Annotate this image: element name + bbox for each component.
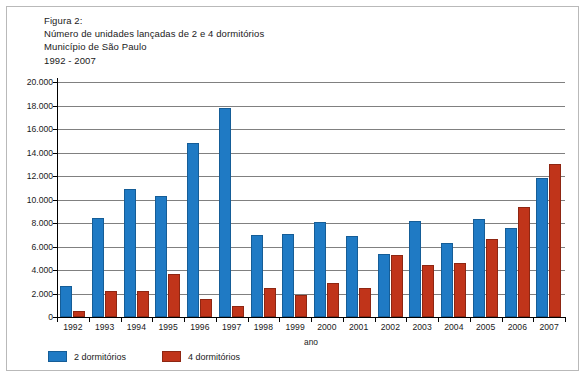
y-tick-label: 12.000: [27, 171, 53, 181]
legend-item-4-dormitorios[interactable]: 4 dormitórios: [162, 351, 240, 362]
legend-label: 4 dormitórios: [188, 352, 240, 362]
y-tick-label: 4.000: [31, 265, 53, 275]
bar-4-dormitorios[interactable]: [549, 164, 561, 317]
bar-4-dormitorios[interactable]: [518, 207, 530, 317]
figure-container: Figura 2: Número de unidades lançadas de…: [0, 0, 585, 379]
bars-layer: [57, 82, 565, 317]
x-tick-label: 1995: [159, 322, 178, 332]
bar-2-dormitorios[interactable]: [536, 178, 548, 317]
bar-group: [121, 82, 153, 317]
bar-group: [152, 82, 184, 317]
bar-group: [375, 82, 407, 317]
x-axis-title: ano: [57, 337, 565, 347]
bar-4-dormitorios[interactable]: [232, 306, 244, 317]
bar-4-dormitorios[interactable]: [200, 299, 212, 317]
bar-2-dormitorios[interactable]: [314, 222, 326, 317]
legend-item-2-dormitorios[interactable]: 2 dormitórios: [48, 351, 126, 362]
bar-2-dormitorios[interactable]: [409, 221, 421, 317]
x-tick-label: 1997: [222, 322, 241, 332]
bar-4-dormitorios[interactable]: [359, 288, 371, 317]
bar-4-dormitorios[interactable]: [295, 295, 307, 317]
bar-4-dormitorios[interactable]: [454, 263, 466, 317]
bar-group: [216, 82, 248, 317]
bar-2-dormitorios[interactable]: [505, 228, 517, 317]
bar-4-dormitorios[interactable]: [168, 274, 180, 317]
bar-2-dormitorios[interactable]: [187, 143, 199, 317]
plot-area: 20.00018.00016.00014.00012.00010.0008.00…: [0, 0, 585, 379]
bar-group: [406, 82, 438, 317]
x-tick-label: 2000: [317, 322, 336, 332]
bar-4-dormitorios[interactable]: [486, 239, 498, 317]
bar-2-dormitorios[interactable]: [124, 189, 136, 317]
bar-group: [533, 82, 565, 317]
bar-group: [279, 82, 311, 317]
x-tick-label: 2006: [508, 322, 527, 332]
x-tick-label: 2004: [444, 322, 463, 332]
bar-4-dormitorios[interactable]: [264, 288, 276, 317]
y-tick-label: 10.000: [27, 195, 53, 205]
bar-2-dormitorios[interactable]: [60, 286, 72, 317]
legend-label: 2 dormitórios: [74, 352, 126, 362]
chart-legend: 2 dormitórios4 dormitórios: [48, 351, 240, 362]
bar-4-dormitorios[interactable]: [391, 255, 403, 317]
bar-2-dormitorios[interactable]: [251, 235, 263, 317]
bar-2-dormitorios[interactable]: [92, 218, 104, 317]
x-tick-label: 2005: [476, 322, 495, 332]
y-tick-label: 18.000: [27, 101, 53, 111]
x-tick-label: 2001: [349, 322, 368, 332]
bar-4-dormitorios[interactable]: [422, 265, 434, 317]
bar-group: [89, 82, 121, 317]
bar-2-dormitorios[interactable]: [219, 108, 231, 317]
y-tick-label: 14.000: [27, 148, 53, 158]
x-tick-label: 1999: [286, 322, 305, 332]
y-tick-label: 16.000: [27, 124, 53, 134]
y-axis-tick-labels: 20.00018.00016.00014.00012.00010.0008.00…: [0, 82, 53, 317]
bar-2-dormitorios[interactable]: [473, 219, 485, 317]
bar-group: [57, 82, 89, 317]
bar-group: [502, 82, 534, 317]
bar-2-dormitorios[interactable]: [378, 254, 390, 317]
bar-group: [184, 82, 216, 317]
x-tick-label: 1993: [95, 322, 114, 332]
bar-4-dormitorios[interactable]: [137, 291, 149, 317]
bar-4-dormitorios[interactable]: [105, 291, 117, 317]
bar-2-dormitorios[interactable]: [282, 234, 294, 317]
x-tick-label: 2002: [381, 322, 400, 332]
x-tick-label: 2007: [540, 322, 559, 332]
bar-4-dormitorios[interactable]: [327, 283, 339, 317]
y-tick-label: 2.000: [31, 289, 53, 299]
y-tick-label: 6.000: [31, 242, 53, 252]
bar-group: [343, 82, 375, 317]
bar-2-dormitorios[interactable]: [346, 236, 358, 317]
x-tick-label: 1998: [254, 322, 273, 332]
x-tick-mark: [565, 317, 566, 322]
x-tick-label: 1992: [63, 322, 82, 332]
x-tick-label: 1996: [190, 322, 209, 332]
legend-swatch-icon: [48, 351, 67, 362]
x-axis-tick-labels: 1992199319941995199619971998199920002001…: [57, 322, 565, 336]
bar-group: [311, 82, 343, 317]
y-tick-label: 8.000: [31, 218, 53, 228]
x-tick-label: 2003: [413, 322, 432, 332]
bar-group: [470, 82, 502, 317]
bar-group: [248, 82, 280, 317]
bar-2-dormitorios[interactable]: [441, 243, 453, 317]
bar-group: [438, 82, 470, 317]
legend-swatch-icon: [162, 351, 181, 362]
y-tick-label: 20.000: [27, 77, 53, 87]
bar-2-dormitorios[interactable]: [155, 196, 167, 317]
x-tick-label: 1994: [127, 322, 146, 332]
